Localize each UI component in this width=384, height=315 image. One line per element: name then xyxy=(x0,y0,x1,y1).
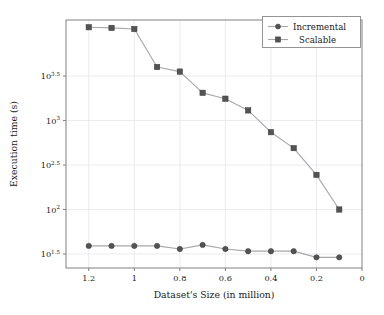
chart-figure: 103.5103102.5102101.51.210.80.60.40.20 D… xyxy=(0,0,384,315)
x-tick-label: 0.4 xyxy=(264,273,277,283)
plot-frame xyxy=(66,20,362,268)
y-tick-label: 102.5 xyxy=(41,160,61,170)
y-tick-label: 101.5 xyxy=(41,249,61,259)
data-point-marker xyxy=(86,25,91,30)
data-point-marker xyxy=(86,243,91,248)
data-point-marker xyxy=(245,248,250,253)
legend-label-incremental: Incremental xyxy=(293,22,346,32)
x-tick-label: 0 xyxy=(359,273,364,283)
data-point-marker xyxy=(154,243,159,248)
legend-marker-square-icon xyxy=(275,37,280,42)
y-tick-label: 103 xyxy=(46,115,60,125)
data-point-marker xyxy=(177,69,182,74)
series-line-incremental xyxy=(89,245,339,257)
x-tick-label: 0.2 xyxy=(310,273,323,283)
series-layer xyxy=(86,25,342,261)
data-point-marker xyxy=(132,243,137,248)
data-point-marker xyxy=(132,26,137,31)
y-tick-label: 103.5 xyxy=(41,71,61,81)
x-axis-title: Dataset's Size (in million) xyxy=(154,289,275,300)
gridlines-layer xyxy=(66,20,362,268)
data-point-marker xyxy=(337,255,342,260)
data-point-marker xyxy=(109,243,114,248)
data-point-marker xyxy=(268,129,273,134)
data-point-marker xyxy=(200,242,205,247)
x-tick-label: 0.8 xyxy=(173,273,186,283)
data-point-marker xyxy=(245,108,250,113)
legend-label-scalable: Scalable xyxy=(299,35,336,45)
y-axis-title: Execution time (s) xyxy=(8,101,19,187)
data-point-marker xyxy=(291,248,296,253)
axis-frame-layer xyxy=(66,20,362,268)
series-incremental xyxy=(86,242,342,260)
series-line-scalable xyxy=(89,27,339,209)
data-point-marker xyxy=(337,207,342,212)
data-point-marker xyxy=(154,64,159,69)
data-point-marker xyxy=(177,246,182,251)
x-tick-label: 1.2 xyxy=(82,273,95,283)
data-point-marker xyxy=(314,172,319,177)
x-tick-label: 0.6 xyxy=(219,273,232,283)
series-scalable xyxy=(86,25,342,213)
data-point-marker xyxy=(314,255,319,260)
legend[interactable]: Incremental Scalable xyxy=(263,17,361,48)
data-point-marker xyxy=(268,248,273,253)
data-point-marker xyxy=(223,246,228,251)
data-point-marker xyxy=(109,25,114,30)
axis-titles-layer: Dataset's Size (in million) Execution ti… xyxy=(8,101,274,300)
x-tick-label: 1 xyxy=(132,273,137,283)
y-tick-label: 102 xyxy=(46,204,60,214)
legend-marker-circle-icon xyxy=(276,24,281,29)
data-point-marker xyxy=(200,90,205,95)
data-point-marker xyxy=(223,96,228,101)
execution-time-line-chart: 103.5103102.5102101.51.210.80.60.40.20 D… xyxy=(0,0,384,315)
data-point-marker xyxy=(291,145,296,150)
